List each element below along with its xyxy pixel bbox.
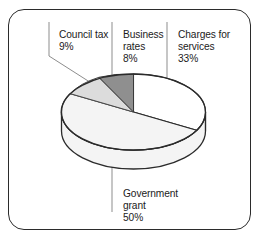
leader-line-council-tax bbox=[49, 22, 96, 86]
pie-chart bbox=[0, 0, 261, 240]
pie-chart-svg bbox=[0, 0, 261, 240]
